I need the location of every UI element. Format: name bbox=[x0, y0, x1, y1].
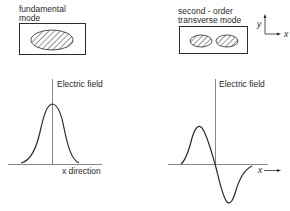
second-order-field-label: Electric field bbox=[219, 79, 265, 89]
waveguide-modes-diagram: fundamental mode second - order transver… bbox=[0, 0, 290, 211]
second-order-field-plot: Electric field x bbox=[168, 79, 281, 203]
fundamental-field-label: Electric field bbox=[57, 79, 103, 89]
fundamental-x-label: x direction bbox=[62, 166, 101, 176]
fundamental-field-plot: Electric field x direction bbox=[8, 79, 103, 176]
second-order-title-line2: transverse mode bbox=[178, 15, 242, 25]
fundamental-title-line2: mode bbox=[19, 13, 41, 23]
y-arrowhead-icon bbox=[264, 14, 267, 18]
second-order-x-arrowhead-icon bbox=[277, 169, 281, 172]
y-axis-label: y bbox=[256, 19, 262, 29]
x-axis-label: x bbox=[283, 29, 289, 39]
gaussian-field-curve bbox=[21, 104, 79, 163]
second-order-x-label: x bbox=[257, 165, 263, 175]
x-arrowhead-icon bbox=[277, 33, 281, 36]
second-order-beam-spot-right bbox=[216, 35, 238, 47]
coordinate-axes: y x bbox=[256, 14, 289, 39]
fundamental-beam-spot bbox=[31, 30, 73, 50]
second-order-mode-panel: second - order transverse mode bbox=[178, 6, 248, 54]
second-order-beam-spot-left bbox=[190, 35, 212, 47]
fundamental-mode-panel: fundamental mode bbox=[19, 4, 86, 55]
